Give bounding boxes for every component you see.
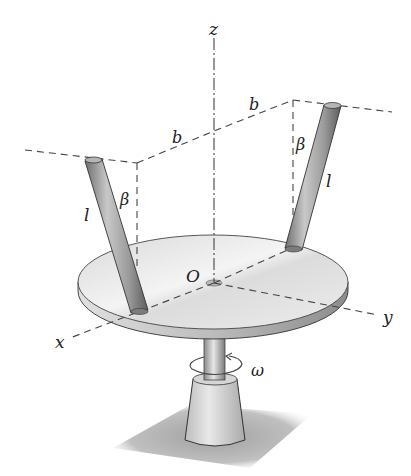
origin-label: O — [186, 266, 200, 286]
angular-velocity-label: ω — [251, 361, 264, 380]
pedestal-base — [185, 373, 245, 446]
dimension-label-b-left: b — [172, 128, 182, 147]
x-axis-label: x — [55, 332, 65, 352]
right-horizontal-dash — [293, 100, 392, 112]
length-label-right: l — [326, 171, 331, 191]
dimension-label-b-right: b — [249, 95, 259, 114]
diagram-canvas: z b b β β l l O x y ω — [0, 0, 411, 476]
angle-label-right: β — [295, 135, 305, 154]
length-label-left: l — [84, 205, 89, 225]
z-axis-label: z — [208, 19, 219, 39]
left-horizontal-dash — [25, 150, 137, 163]
y-axis-label: y — [382, 307, 393, 327]
dimension-line-b — [137, 100, 293, 163]
angle-label-left: β — [119, 190, 129, 209]
